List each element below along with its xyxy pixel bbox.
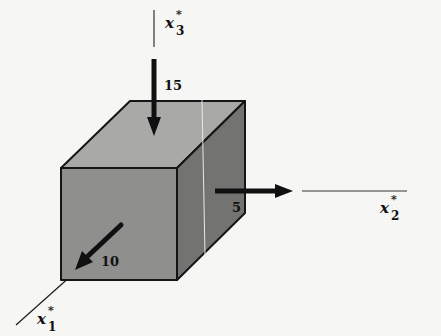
cube-diagram bbox=[0, 0, 441, 336]
force-10-label: 10 bbox=[101, 255, 119, 268]
force-15-label: 15 bbox=[164, 79, 182, 92]
force-5-label: 5 bbox=[232, 201, 241, 214]
x2-axis-label: x*2 bbox=[380, 201, 389, 216]
x1-axis-label: x*1 bbox=[37, 312, 46, 327]
x3-axis-label: x*3 bbox=[165, 16, 174, 31]
